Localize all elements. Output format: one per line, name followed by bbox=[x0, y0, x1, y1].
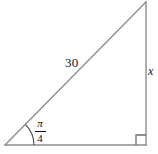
right-angle-square-icon bbox=[136, 135, 146, 145]
opposite-side-label: x bbox=[148, 65, 153, 77]
angle-denominator: 4 bbox=[37, 132, 43, 145]
hypotenuse-length-label: 30 bbox=[65, 56, 78, 69]
angle-measure-label: π 4 bbox=[33, 118, 47, 144]
angle-numerator: π bbox=[37, 118, 43, 131]
hypotenuse-line bbox=[5, 2, 146, 145]
triangle-figure: 30 x π 4 bbox=[0, 0, 158, 154]
triangle-diagram-svg bbox=[0, 0, 158, 154]
